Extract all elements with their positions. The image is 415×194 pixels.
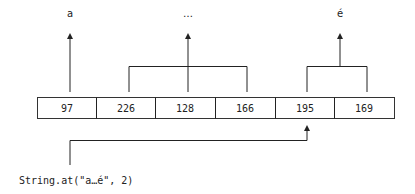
arrowhead-icon	[337, 33, 343, 39]
byte-cell-1: 226	[117, 103, 135, 114]
pointer-arrow	[70, 125, 310, 165]
byte-cell-5: 169	[355, 103, 373, 114]
byte-cell-4: 195	[296, 103, 314, 114]
char-label-a: a	[67, 8, 73, 19]
arrowhead-icon	[67, 33, 73, 39]
bracket-e-acute	[307, 33, 367, 92]
arrowhead-icon	[185, 33, 191, 39]
utf8-byte-diagram: a … é 97 226 128 166 195 169 String	[0, 0, 415, 194]
bracket-ellipsis	[129, 33, 247, 92]
char-label-ellipsis: …	[183, 8, 193, 19]
arrow-a	[67, 33, 73, 92]
byte-cell-0: 97	[61, 103, 73, 114]
arrowhead-icon	[304, 125, 310, 131]
byte-array: 97 226 128 166 195 169	[38, 98, 395, 119]
code-label: String.at("a…é", 2)	[19, 175, 133, 186]
byte-cell-2: 128	[176, 103, 194, 114]
char-label-e-acute: é	[337, 8, 343, 19]
byte-cell-3: 166	[236, 103, 254, 114]
